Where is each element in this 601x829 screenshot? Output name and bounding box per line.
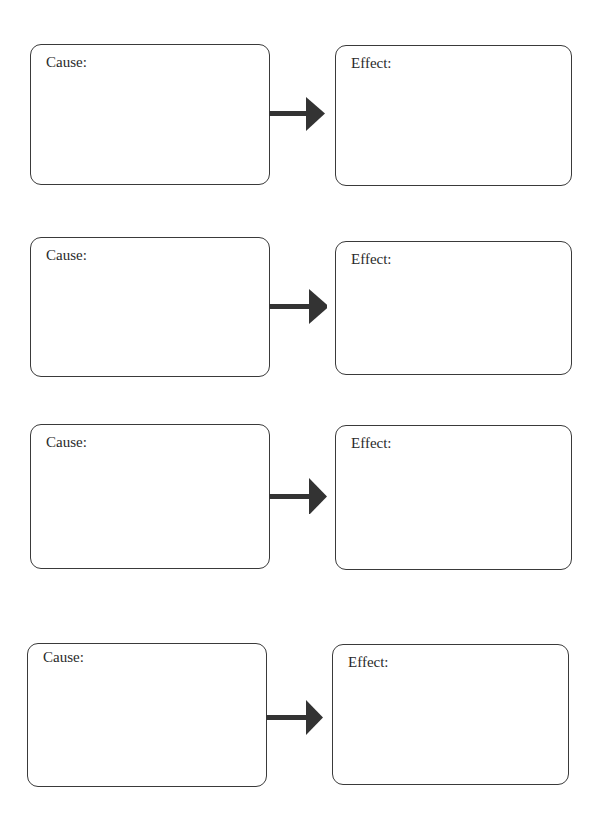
effect-label-3: Effect: xyxy=(351,436,392,451)
effect-label-1: Effect: xyxy=(351,56,392,71)
effect-box-3: Effect: xyxy=(335,425,572,570)
arrow-2 xyxy=(269,288,327,324)
arrow-1 xyxy=(269,96,327,132)
arrow-right-icon xyxy=(269,478,327,514)
effect-label-2: Effect: xyxy=(351,252,392,267)
arrow-right-icon xyxy=(266,700,324,736)
cause-box-2: Cause: xyxy=(30,237,270,377)
cause-box-1: Cause: xyxy=(30,44,270,185)
cause-label-1: Cause: xyxy=(46,55,87,70)
cause-label-4: Cause: xyxy=(43,650,84,665)
effect-box-1: Effect: xyxy=(335,45,572,186)
effect-box-4: Effect: xyxy=(332,644,569,785)
arrow-4 xyxy=(266,700,324,736)
effect-box-2: Effect: xyxy=(335,241,572,375)
arrow-right-icon xyxy=(269,96,327,132)
arrow-3 xyxy=(269,478,327,514)
cause-label-3: Cause: xyxy=(46,435,87,450)
cause-box-4: Cause: xyxy=(27,643,267,787)
arrow-right-icon xyxy=(269,288,327,324)
effect-label-4: Effect: xyxy=(348,655,389,670)
cause-box-3: Cause: xyxy=(30,424,270,569)
cause-label-2: Cause: xyxy=(46,248,87,263)
